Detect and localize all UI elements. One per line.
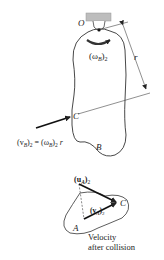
- point-c-label: C: [120, 198, 127, 208]
- collision-diagram: O (ωB)2 r C B (vB)2 = (ωB)2 r (uA)2 (vA)…: [0, 0, 164, 260]
- velocity-arrow-ua: [79, 184, 116, 202]
- velocity-equation: (vB)2 = (ωB)2 r: [17, 138, 64, 148]
- body-b-label: B: [96, 142, 102, 152]
- fixed-support: [86, 13, 111, 21]
- caption-line-1: Velocity: [88, 232, 117, 242]
- lower-figure: (uA)2 (vA)2 C A Velocity after collision: [64, 175, 136, 252]
- caption-line-2: after collision: [88, 242, 136, 252]
- body-a-label: A: [72, 223, 79, 233]
- body-b-outline: [72, 29, 126, 156]
- radius-dim-ext-bottom: [78, 93, 150, 114]
- radius-label: r: [134, 52, 138, 62]
- pivot-label: O: [78, 18, 85, 28]
- velocity-arrow-vb: [36, 117, 70, 128]
- contact-point-label: C: [73, 111, 80, 121]
- u-component-dashed: [79, 184, 84, 219]
- va-label: (vA)2: [90, 206, 105, 216]
- angular-velocity-arrow-icon: [87, 40, 110, 44]
- angular-velocity-label: (ωB)2: [89, 51, 108, 62]
- ua-label: (uA)2: [74, 175, 90, 185]
- upper-figure: O (ωB)2 r C B (vB)2 = (ωB)2 r: [17, 13, 150, 156]
